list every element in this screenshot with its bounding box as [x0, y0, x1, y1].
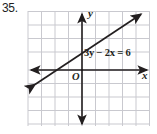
- axes: [31, 14, 147, 124]
- grid-lines: [28, 11, 150, 126]
- coordinate-plane-svg: [0, 0, 157, 134]
- x-axis-label: x: [142, 70, 148, 81]
- equation-label: 3y − 2x = 6: [84, 47, 131, 59]
- equation-text: 3y − 2x = 6: [84, 47, 131, 58]
- y-axis-label: y: [88, 8, 93, 19]
- coordinate-grid-figure: 3y − 2x = 6 y x O: [0, 0, 157, 134]
- origin-label: O: [72, 71, 80, 82]
- exercise-figure-page: 35.: [0, 0, 157, 134]
